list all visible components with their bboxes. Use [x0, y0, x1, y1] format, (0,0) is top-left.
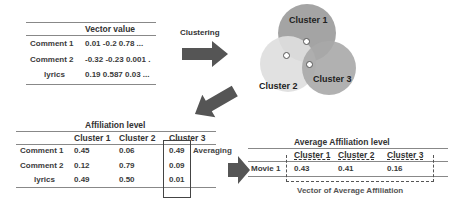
cluster-2-label: Cluster 2: [259, 81, 298, 91]
vector-table-top-rule: [26, 22, 156, 23]
affiliation-cell: 0.49: [74, 175, 90, 184]
vector-table-header: Vector value: [85, 24, 135, 34]
vector-row-value: -0.32 -0.23 0.001 .: [85, 55, 150, 64]
affiliation-col-header: Cluster 2: [119, 133, 155, 143]
vector-row-value: 0.19 0.587 0.03 ...: [85, 70, 150, 79]
arrow-down-left-icon: [190, 84, 238, 122]
affiliation-col-header: Cluster 1: [74, 133, 110, 143]
cluster-3-centroid: [306, 61, 313, 68]
cluster-3-label: Cluster 3: [313, 74, 352, 84]
cluster-1-label: Cluster 1: [289, 15, 328, 25]
cluster-2-centroid: [283, 52, 290, 59]
average-table-caption: Vector of Average Affiliation: [297, 186, 403, 195]
affiliation-cell: 0.12: [74, 161, 90, 170]
vector-table-header-rule: [26, 35, 156, 36]
averaging-label: Averaging: [193, 146, 232, 155]
average-row-label: Movie 1: [251, 164, 280, 173]
affiliation-row-label: lyrics: [34, 175, 55, 184]
affiliation-top-rule: [16, 131, 216, 132]
affiliation-row-label: Comment 2: [20, 161, 64, 170]
arrow-right-icon: [182, 41, 228, 67]
cluster-3-highlight-box: [163, 140, 191, 198]
affiliation-cell: 0.50: [119, 175, 135, 184]
vector-row-value: 0.01 -0.2 0.78 ...: [85, 39, 143, 48]
average-vector-dashed-box: [286, 155, 434, 182]
affiliation-table-title: Affiliation level: [85, 120, 145, 130]
average-table-title: Average Affiliation level: [294, 137, 390, 147]
affiliation-row-label: Comment 1: [20, 146, 64, 155]
clustering-label: Clustering: [180, 28, 220, 37]
average-top-rule: [248, 148, 448, 149]
vector-row-label: lyrics: [44, 70, 65, 79]
vector-table-bottom-rule: [26, 84, 156, 85]
cluster-1-centroid: [303, 38, 310, 45]
affiliation-cell: 0.79: [119, 161, 135, 170]
affiliation-cell: 0.06: [119, 146, 135, 155]
vector-row-label: Comment 1: [30, 39, 74, 48]
affiliation-cell: 0.45: [74, 146, 90, 155]
vector-row-label: Comment 2: [30, 55, 74, 64]
arrow-right-icon: [228, 156, 250, 184]
